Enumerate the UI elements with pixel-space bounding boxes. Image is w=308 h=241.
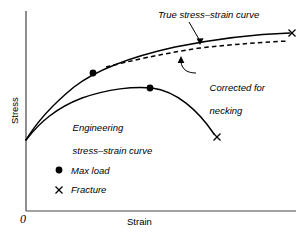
- legend-label-fracture: Fracture: [71, 184, 106, 195]
- corrected-for-necking-label: Corrected for necking: [199, 71, 265, 127]
- corrected-for-necking-label-line2: necking: [210, 105, 243, 116]
- legend-fracture-x-icon: [56, 187, 63, 194]
- max-load-dot-engineering-curve: [147, 85, 154, 92]
- stress-strain-figure: True stress–strain curve Corrected for n…: [0, 0, 308, 241]
- true-curve-leader-arrow: [189, 22, 204, 45]
- fracture-marker-engineering-curve: [214, 134, 221, 141]
- origin-label: 0: [20, 212, 26, 226]
- corrected-for-necking-leader-arrow: [178, 56, 196, 73]
- engineering-curve-label: Engineering stress–strain curve: [62, 111, 152, 167]
- y-axis-label: Stress: [9, 87, 20, 135]
- legend-label-max-load: Max load: [71, 165, 110, 176]
- corrected-for-necking-label-line1: Corrected for: [210, 82, 265, 93]
- true-curve-label: True stress–strain curve: [158, 9, 259, 20]
- x-axis-label: Strain: [127, 216, 152, 227]
- corrected-for-necking-curve: [106, 41, 288, 67]
- engineering-curve-label-line1: Engineering: [73, 122, 124, 133]
- max-load-dot-true-curve: [90, 70, 97, 77]
- engineering-curve-label-line2: stress–strain curve: [73, 145, 153, 156]
- legend-max-load-dot-icon: [56, 167, 63, 174]
